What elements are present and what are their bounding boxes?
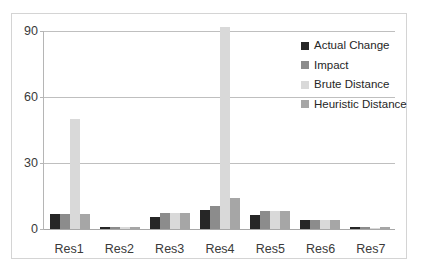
y-axis-label-30: 30 <box>24 156 38 170</box>
x-axis-label-res6: Res6 <box>295 229 345 256</box>
legend-swatch-icon <box>301 61 309 69</box>
bar-res3-brute-distance <box>170 213 180 230</box>
bar-res6-brute-distance <box>320 220 330 229</box>
bar-group-res1 <box>45 31 95 229</box>
y-axis-label-90: 90 <box>24 24 38 38</box>
bar-group-res5 <box>245 31 295 229</box>
bar-group-res3 <box>145 31 195 229</box>
bar-group-res4 <box>195 31 245 229</box>
tick-mark-60 <box>40 97 44 98</box>
bar-res1-heuristic-distance <box>80 214 90 229</box>
y-axis-label-0: 0 <box>31 222 38 236</box>
bar-res5-impact <box>260 211 270 229</box>
bar-res1-brute-distance <box>70 119 80 229</box>
bar-res6-actual-change <box>300 220 310 229</box>
legend-item-heuristic-distance[interactable]: Heuristic Distance <box>301 99 407 111</box>
tick-mark-90 <box>40 31 44 32</box>
bar-res3-heuristic-distance <box>180 213 190 230</box>
legend-item-actual-change[interactable]: Actual Change <box>301 40 407 52</box>
legend-label: Brute Distance <box>314 79 389 91</box>
chart-legend: Actual ChangeImpactBrute DistanceHeurist… <box>301 40 407 110</box>
legend-label: Actual Change <box>314 40 389 52</box>
legend-swatch-icon <box>301 81 309 89</box>
legend-item-impact[interactable]: Impact <box>301 60 407 72</box>
x-axis-label-res2: Res2 <box>94 229 144 256</box>
bar-res1-actual-change <box>50 214 60 229</box>
tick-mark-30 <box>40 163 44 164</box>
x-axis-label-res4: Res4 <box>195 229 245 256</box>
chart-frame: 90 60 30 0 Res1Res2Res3Res4Res5Res6Res7 … <box>11 13 407 259</box>
bar-res4-impact <box>210 206 220 229</box>
x-axis-label-res3: Res3 <box>145 229 195 256</box>
x-axis-labels: Res1Res2Res3Res4Res5Res6Res7 <box>44 229 396 256</box>
x-axis-label-res7: Res7 <box>346 229 396 256</box>
bar-res3-actual-change <box>150 217 160 229</box>
bar-res3-impact <box>160 213 170 230</box>
x-axis-label-res1: Res1 <box>44 229 94 256</box>
bar-res1-impact <box>60 214 70 229</box>
bar-group-res2 <box>95 31 145 229</box>
x-axis-label-res5: Res5 <box>245 229 295 256</box>
legend-label: Heuristic Distance <box>314 99 407 111</box>
bar-res5-heuristic-distance <box>280 211 290 229</box>
legend-label: Impact <box>314 60 349 72</box>
y-axis-label-60: 60 <box>24 90 38 104</box>
legend-item-brute-distance[interactable]: Brute Distance <box>301 79 407 91</box>
bar-res5-actual-change <box>250 215 260 229</box>
legend-swatch-icon <box>301 100 309 108</box>
bar-res5-brute-distance <box>270 211 280 229</box>
bar-res4-heuristic-distance <box>230 198 240 229</box>
bar-res4-actual-change <box>200 210 210 229</box>
bar-res4-brute-distance <box>220 27 230 229</box>
legend-swatch-icon <box>301 42 309 50</box>
bar-res6-heuristic-distance <box>330 220 340 229</box>
bar-res6-impact <box>310 220 320 229</box>
